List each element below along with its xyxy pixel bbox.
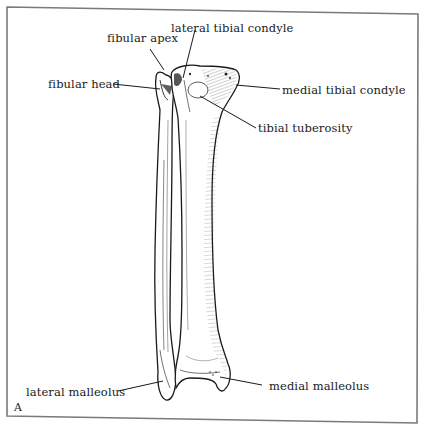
anatomy-figure: lateral tibial condyle fibular apex fibu… — [0, 0, 427, 430]
tibia-fibula-illustration — [0, 0, 427, 430]
tibia — [171, 65, 239, 391]
panel-letter: A — [14, 402, 22, 413]
label-lateral-malleolus: lateral malleolus — [26, 387, 125, 399]
leader-fibular-head — [113, 84, 160, 89]
leader-fibular-apex — [150, 49, 164, 70]
leader-medial-tibial-condyle — [236, 85, 280, 89]
label-fibular-apex: fibular apex — [107, 33, 178, 45]
label-fibular-head: fibular head — [48, 79, 120, 91]
label-medial-tibial-condyle: medial tibial condyle — [282, 85, 406, 97]
fibula — [155, 72, 176, 400]
label-tibial-tuberosity: tibial tuberosity — [258, 123, 353, 135]
label-lateral-tibial-condyle: lateral tibial condyle — [171, 23, 294, 35]
label-medial-malleolus: medial malleolus — [269, 381, 369, 393]
